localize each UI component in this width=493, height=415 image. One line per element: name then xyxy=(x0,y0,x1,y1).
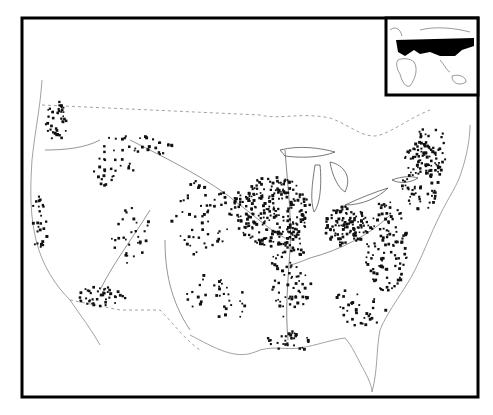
site-dot xyxy=(416,207,418,209)
site-dot xyxy=(342,224,345,227)
site-dot xyxy=(429,156,431,158)
site-dot xyxy=(353,238,355,240)
site-dot xyxy=(237,191,240,194)
site-dot xyxy=(202,279,204,281)
site-dot xyxy=(287,215,289,217)
site-dot xyxy=(402,188,404,190)
site-dot xyxy=(383,252,385,254)
site-dot xyxy=(80,291,83,294)
site-dot xyxy=(242,201,244,203)
site-dot xyxy=(288,181,291,184)
site-dot xyxy=(63,111,65,113)
site-dot xyxy=(197,296,200,299)
site-dot xyxy=(325,220,327,222)
site-dot xyxy=(405,234,408,237)
site-dot xyxy=(200,300,203,303)
site-dot xyxy=(420,148,422,150)
site-dot xyxy=(294,228,297,231)
site-dot xyxy=(220,279,222,281)
site-dot xyxy=(199,303,202,306)
site-dot xyxy=(37,230,39,232)
site-dot xyxy=(269,181,271,183)
site-dot xyxy=(408,200,410,202)
site-dot xyxy=(239,300,241,302)
site-dot xyxy=(98,166,101,169)
site-dot xyxy=(405,156,407,158)
site-dot xyxy=(90,292,92,294)
site-dot xyxy=(297,232,299,234)
site-dot xyxy=(51,137,53,139)
site-dot xyxy=(58,108,60,110)
site-dot xyxy=(300,221,303,224)
site-dot xyxy=(364,323,367,326)
site-dot xyxy=(283,243,285,245)
site-dot xyxy=(430,182,433,185)
site-dot xyxy=(194,215,196,217)
site-dot xyxy=(351,303,353,305)
site-dot xyxy=(397,282,399,284)
site-dot xyxy=(273,192,275,194)
site-dot xyxy=(344,206,346,208)
site-dot xyxy=(370,257,373,260)
site-dot xyxy=(290,250,293,253)
site-dot xyxy=(273,213,275,215)
site-dot xyxy=(412,189,414,191)
site-dot xyxy=(395,257,398,260)
site-dot xyxy=(207,209,209,211)
site-dot xyxy=(301,283,304,286)
site-dot xyxy=(367,225,369,227)
site-dot xyxy=(245,222,248,225)
site-dot xyxy=(432,201,435,204)
site-dot xyxy=(40,215,42,217)
site-dot xyxy=(108,137,110,139)
site-dot xyxy=(46,122,49,125)
site-dot xyxy=(289,303,291,305)
site-dot xyxy=(226,229,228,231)
site-dot xyxy=(293,344,295,346)
site-dot xyxy=(283,220,285,222)
site-dot xyxy=(342,228,345,231)
site-dot xyxy=(420,142,423,145)
site-dot xyxy=(435,157,437,159)
site-dot xyxy=(281,198,283,200)
site-dot xyxy=(269,219,271,221)
site-dot xyxy=(353,217,355,219)
site-dot xyxy=(289,236,292,239)
site-dot xyxy=(377,248,379,250)
site-dot xyxy=(275,210,277,212)
site-dot xyxy=(349,221,352,224)
site-dot xyxy=(203,186,206,189)
site-dot xyxy=(378,203,380,205)
site-dot xyxy=(430,173,433,176)
site-dot xyxy=(403,253,406,256)
site-dot xyxy=(398,257,400,259)
site-dot xyxy=(248,222,250,224)
site-dot xyxy=(387,220,389,222)
site-dot xyxy=(147,220,150,223)
site-dot xyxy=(285,296,287,298)
site-dot xyxy=(187,194,189,196)
site-dot xyxy=(363,225,365,227)
site-dot xyxy=(394,254,396,256)
site-dot xyxy=(141,251,144,254)
site-dot xyxy=(108,297,110,299)
site-dot xyxy=(36,222,39,225)
site-dot xyxy=(248,198,250,200)
site-dot xyxy=(294,296,297,299)
site-dot xyxy=(276,176,279,179)
site-dot xyxy=(271,186,273,188)
site-dot xyxy=(279,301,281,303)
site-dot xyxy=(230,208,232,210)
site-dot xyxy=(300,218,302,220)
site-dot xyxy=(381,213,384,216)
site-dot xyxy=(144,230,146,232)
site-dot xyxy=(288,272,291,275)
site-dot xyxy=(283,316,285,318)
site-dot xyxy=(282,305,284,307)
site-dot xyxy=(219,295,221,297)
site-dot xyxy=(159,153,161,155)
site-dot xyxy=(240,219,242,221)
site-dot xyxy=(128,146,131,149)
site-dot xyxy=(132,169,134,171)
site-dot xyxy=(278,292,280,294)
